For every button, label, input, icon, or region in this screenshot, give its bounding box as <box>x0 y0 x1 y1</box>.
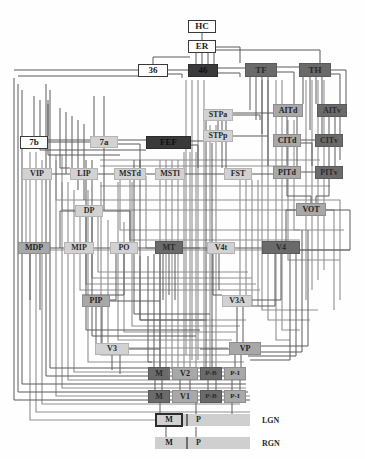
label-rgn-name: RGN <box>262 439 280 448</box>
area-node-lip[interactable]: LIP <box>70 168 98 180</box>
area-node-vot[interactable]: VOT <box>296 203 326 216</box>
area-node-v4t[interactable]: V4t <box>207 242 235 254</box>
area-node-stpp[interactable]: STPp <box>203 130 233 142</box>
area-node-citd[interactable]: CITd <box>273 134 301 147</box>
area-node-vip[interactable]: VIP <box>22 168 52 180</box>
area-node-th[interactable]: TH <box>299 63 331 77</box>
area-node-po[interactable]: PO <box>110 242 138 254</box>
rgn-separator <box>186 437 188 449</box>
area-node-pitv[interactable]: PITv <box>315 166 343 179</box>
area-node-v1[interactable]: V1 <box>172 390 198 403</box>
lgn-separator <box>186 414 188 426</box>
v2-separator <box>168 368 170 379</box>
area-node-aitd[interactable]: AITd <box>273 104 303 117</box>
area-node-lgnm[interactable]: M <box>155 413 183 427</box>
area-node-v2[interactable]: V2 <box>172 367 198 380</box>
visual-hierarchy-figure: HCER3646TFTHSTPaAITdAITvSTPpCITdCITv7b7a… <box>0 0 365 459</box>
area-node-v2pi[interactable]: P-I <box>224 367 246 380</box>
area-node-hc[interactable]: HC <box>188 20 216 33</box>
area-node-7b[interactable]: 7b <box>20 136 48 149</box>
area-node-mstd[interactable]: MSTd <box>114 168 146 180</box>
area-node-rgnm[interactable]: M <box>158 437 180 449</box>
label-lgn-p: P <box>196 415 201 424</box>
area-node-pitd[interactable]: PITd <box>273 166 301 179</box>
area-node-v1pi[interactable]: P-I <box>224 390 246 403</box>
area-node-v3a[interactable]: V3A <box>222 295 252 307</box>
area-node-citv[interactable]: CITv <box>315 134 343 147</box>
area-node-v2pb[interactable]: P-B <box>200 367 222 380</box>
label-rgn-p: P <box>196 438 201 447</box>
area-node-vp[interactable]: VP <box>229 342 261 355</box>
area-node-tf[interactable]: TF <box>245 63 277 77</box>
area-node-aitv[interactable]: AITv <box>317 104 347 117</box>
label-lgn-name: LGN <box>262 416 279 425</box>
area-node-mip[interactable]: MIP <box>64 242 94 254</box>
area-node-pip[interactable]: PIP <box>82 295 110 307</box>
area-node-mstl[interactable]: MSTl <box>155 168 185 180</box>
area-node-v1m[interactable]: M <box>148 390 170 403</box>
area-node-v2m[interactable]: M <box>148 367 170 380</box>
area-node-dp[interactable]: DP <box>75 205 103 217</box>
area-node-mdp[interactable]: MDP <box>18 242 50 254</box>
area-node-mt[interactable]: MT <box>155 241 183 254</box>
area-node-7a[interactable]: 7a <box>90 136 118 148</box>
area-node-36[interactable]: 36 <box>138 64 168 77</box>
area-node-46[interactable]: 46 <box>188 64 218 77</box>
area-node-stpa[interactable]: STPa <box>203 109 233 121</box>
area-node-v3[interactable]: V3 <box>95 343 129 355</box>
area-node-v1pb[interactable]: P-B <box>200 390 222 403</box>
area-node-v4[interactable]: V4 <box>262 241 300 254</box>
area-node-fst[interactable]: FST <box>224 168 252 180</box>
area-node-er[interactable]: ER <box>188 40 216 53</box>
area-node-fef[interactable]: FEF <box>146 136 191 149</box>
